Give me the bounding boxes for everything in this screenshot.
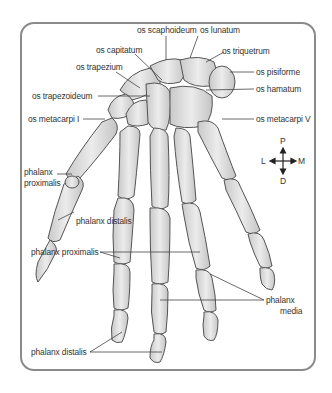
label-os-trapezium: os trapezium — [76, 62, 123, 72]
label-os-hamatum: os hamatum — [256, 84, 301, 94]
label-os-pisiforme: os pisiforme — [256, 67, 300, 77]
label-thumb-phalanx-proximalis-line1: phalanx — [24, 167, 53, 177]
direction-compass: P D L M — [262, 140, 312, 190]
label-phalanx-proximalis: phalanx proximalis — [31, 247, 99, 257]
label-os-lunatum: os lunatum — [200, 25, 240, 35]
label-os-triquetrum: os triquetrum — [222, 46, 270, 56]
carpal-bones — [108, 57, 235, 130]
compass-proximal: P — [280, 136, 286, 146]
label-thumb-phalanx-proximalis-line2: proximalis — [24, 178, 61, 188]
label-os-capitatum: os capitatum — [96, 45, 142, 55]
compass-medial: M — [298, 156, 305, 166]
compass-distal: D — [280, 176, 286, 186]
label-phalanx-distalis: phalanx distalis — [31, 347, 87, 357]
index-finger-bones — [111, 126, 140, 343]
label-os-metacarpi-i: os metacarpi I — [28, 114, 79, 124]
thumb-bones — [36, 118, 117, 282]
label-os-trapezoideum: os trapezoideum — [32, 91, 92, 101]
label-phalanx-media-line1: phalanx — [266, 295, 295, 305]
label-os-scaphoideum: os scaphoideum — [137, 25, 197, 35]
compass-lateral: L — [261, 156, 266, 166]
label-phalanx-media-line2: media — [280, 306, 302, 316]
hand-skeleton-illustration — [0, 0, 332, 393]
label-os-metacarpi-v: os metacarpi V — [256, 114, 310, 124]
ring-finger-bones — [174, 128, 218, 341]
label-thumb-phalanx-distalis: phalanx distalis — [76, 216, 132, 226]
middle-finger-bones — [150, 128, 170, 363]
